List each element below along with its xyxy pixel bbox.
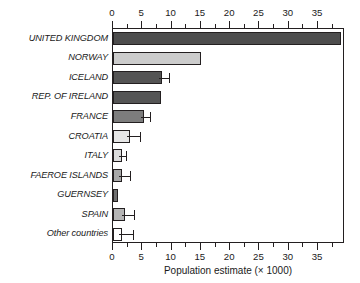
x-tick-major [112,21,113,28]
bar [113,189,118,202]
x-tick-label: 5 [139,7,144,18]
x-tick-label: 0 [109,7,114,18]
category-label: ICELAND [0,72,108,82]
x-tick-major [258,21,259,28]
error-bar-cap [140,132,141,142]
bar-row [113,146,345,166]
bar-row [113,127,345,147]
x-tick-minor [332,24,333,28]
x-tick-major [200,21,201,28]
x-tick-minor [156,24,157,28]
x-tick-minor [215,24,216,28]
x-tick-label: 10 [165,251,176,262]
error-bar-cap [133,230,134,240]
x-tick-label: 10 [165,7,176,18]
x-tick-minor [127,243,128,247]
x-tick-major [141,243,142,250]
x-tick-minor [302,243,303,247]
x-tick-major [258,243,259,250]
x-axis-title: Population estimate (× 1000) [112,265,344,277]
x-tick-minor [273,243,274,247]
category-axis: UNITED KINGDOMNORWAYICELANDREP. OF IRELA… [0,28,108,243]
error-bar-cap [150,112,151,122]
x-tick-minor [185,243,186,247]
category-label: ITALY [0,150,108,160]
x-tick-label: 30 [282,251,293,262]
x-tick-label: 20 [224,251,235,262]
bar [113,52,201,65]
error-bar-cap [169,73,170,83]
x-tick-minor [244,243,245,247]
bar-chart-figure: UNITED KINGDOMNORWAYICELANDREP. OF IRELA… [0,0,360,283]
x-axis-top-tick-labels: 05101520253035 [112,7,344,20]
x-tick-label: 20 [224,7,235,18]
error-bar [141,117,150,118]
x-axis-bottom-tick-labels: 05101520253035 [112,251,344,264]
error-bar [119,176,130,177]
x-tick-label: 25 [253,251,264,262]
category-label: Other countries [0,228,108,238]
x-tick-major [317,21,318,28]
category-label: UNITED KINGDOM [0,33,108,43]
bar-row [113,29,345,49]
x-tick-minor [156,243,157,247]
x-tick-label: 30 [282,7,293,18]
bar [113,32,341,45]
x-tick-major [112,243,113,250]
bar-row [113,185,345,205]
x-axis-top-ticks [112,21,344,28]
x-tick-label: 0 [109,251,114,262]
x-tick-label: 35 [312,251,323,262]
error-bar-cap [130,171,131,181]
bar [113,110,144,123]
x-tick-minor [215,243,216,247]
x-tick-major [317,243,318,250]
x-tick-major [171,21,172,28]
bar-row [113,107,345,127]
error-bar-cap [126,151,127,161]
error-bar [159,78,169,79]
category-label: FRANCE [0,111,108,121]
x-tick-label: 5 [139,251,144,262]
error-bar [119,156,126,157]
error-bar [119,234,133,235]
x-tick-major [288,243,289,250]
x-tick-minor [302,24,303,28]
bar-series [113,29,343,242]
bar-row [113,166,345,186]
x-tick-minor [185,24,186,28]
x-tick-major [171,243,172,250]
x-tick-label: 35 [312,7,323,18]
x-tick-label: 15 [195,7,206,18]
bar-row [113,68,345,88]
x-axis-bottom-ticks [112,243,344,250]
x-tick-minor [273,24,274,28]
bar-row [113,205,345,225]
plot-area [112,28,344,243]
bar-row [113,224,345,244]
x-tick-minor [127,24,128,28]
x-tick-label: 15 [195,251,206,262]
error-bar [127,136,140,137]
category-label: CROATIA [0,131,108,141]
category-label: NORWAY [0,52,108,62]
x-tick-major [200,243,201,250]
x-tick-major [288,21,289,28]
x-tick-major [229,21,230,28]
bar-row [113,88,345,108]
category-label: REP. OF IRELAND [0,91,108,101]
error-bar-cap [134,210,135,220]
category-label: SPAIN [0,209,108,219]
x-tick-label: 25 [253,7,264,18]
error-bar [122,215,134,216]
category-label: GUERNSEY [0,189,108,199]
x-tick-minor [332,243,333,247]
category-label: FAEROE ISLANDS [0,170,108,180]
bar [113,91,161,104]
x-tick-minor [244,24,245,28]
x-tick-major [141,21,142,28]
bar [113,71,162,84]
bar-row [113,49,345,69]
x-tick-major [229,243,230,250]
